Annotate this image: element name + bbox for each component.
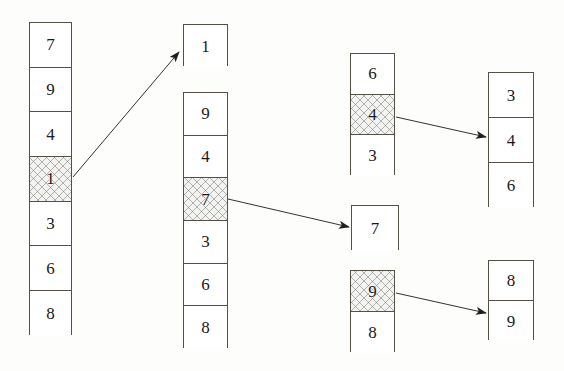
remaining-list: 947368 [183, 92, 228, 348]
list-cell: 8 [30, 291, 71, 336]
cell-value: 3 [368, 147, 377, 164]
cell-value: 1 [46, 170, 55, 187]
cell-value: 8 [46, 305, 55, 322]
cell-value: 4 [507, 132, 516, 149]
arrow-layer [0, 0, 564, 371]
list-cell: 7 [352, 206, 398, 251]
list-cell: 8 [184, 306, 227, 349]
list-cell: 4 [489, 118, 533, 163]
list-cell: 6 [489, 163, 533, 208]
group-three-four-six: 346 [488, 72, 534, 207]
list-cell: 3 [351, 135, 394, 176]
group-eight-nine: 89 [488, 260, 534, 340]
arrow-one-to-extracted [73, 52, 179, 177]
cell-value: 9 [201, 105, 210, 122]
cell-value: 9 [507, 313, 516, 330]
list-cell: 6 [351, 54, 394, 95]
list-cell: 8 [351, 312, 394, 353]
cell-value: 8 [201, 319, 210, 336]
cell-value: 6 [201, 276, 210, 293]
group-nine-eight: 98 [350, 270, 395, 352]
cell-value: 6 [46, 260, 55, 277]
cell-value: 1 [201, 38, 210, 55]
list-cell: 4 [30, 112, 71, 157]
cell-value: 9 [46, 81, 55, 98]
list-cell: 7 [30, 23, 71, 68]
cell-value: 4 [201, 148, 210, 165]
cell-value: 4 [368, 106, 377, 123]
list-cell: 8 [489, 261, 533, 301]
extracted-one-box: 1 [183, 24, 228, 66]
extracted-seven-box: 7 [351, 205, 399, 250]
cell-value: 7 [46, 36, 55, 53]
cell-value: 6 [507, 177, 516, 194]
cell-value: 7 [371, 220, 380, 237]
cell-value: 6 [368, 65, 377, 82]
highlighted-cell: 9 [351, 271, 394, 312]
list-cell: 6 [184, 264, 227, 307]
cell-value: 7 [201, 191, 210, 208]
list-cell: 9 [30, 68, 71, 113]
diagram-canvas: 7941368194736864334679889 [0, 0, 564, 371]
cell-value: 4 [46, 126, 55, 143]
list-cell: 9 [489, 301, 533, 341]
cell-value: 8 [368, 324, 377, 341]
arrow-nine-to-group [396, 293, 486, 313]
list-cell: 6 [30, 246, 71, 291]
cell-value: 9 [368, 283, 377, 300]
cell-value: 3 [507, 87, 516, 104]
cell-value: 3 [46, 215, 55, 232]
group-six-four-three: 643 [350, 53, 395, 175]
source-list: 7941368 [29, 22, 72, 335]
highlighted-cell: 4 [351, 95, 394, 136]
arrow-seven-to-extracted [228, 199, 349, 227]
list-cell: 3 [489, 73, 533, 118]
highlighted-cell: 1 [30, 157, 71, 202]
arrow-four-to-group [396, 117, 486, 137]
highlighted-cell: 7 [184, 178, 227, 221]
list-cell: 9 [184, 93, 227, 136]
list-cell: 1 [184, 25, 227, 67]
cell-value: 8 [507, 272, 516, 289]
list-cell: 3 [184, 221, 227, 264]
cell-value: 3 [201, 233, 210, 250]
list-cell: 3 [30, 202, 71, 247]
list-cell: 4 [184, 136, 227, 179]
